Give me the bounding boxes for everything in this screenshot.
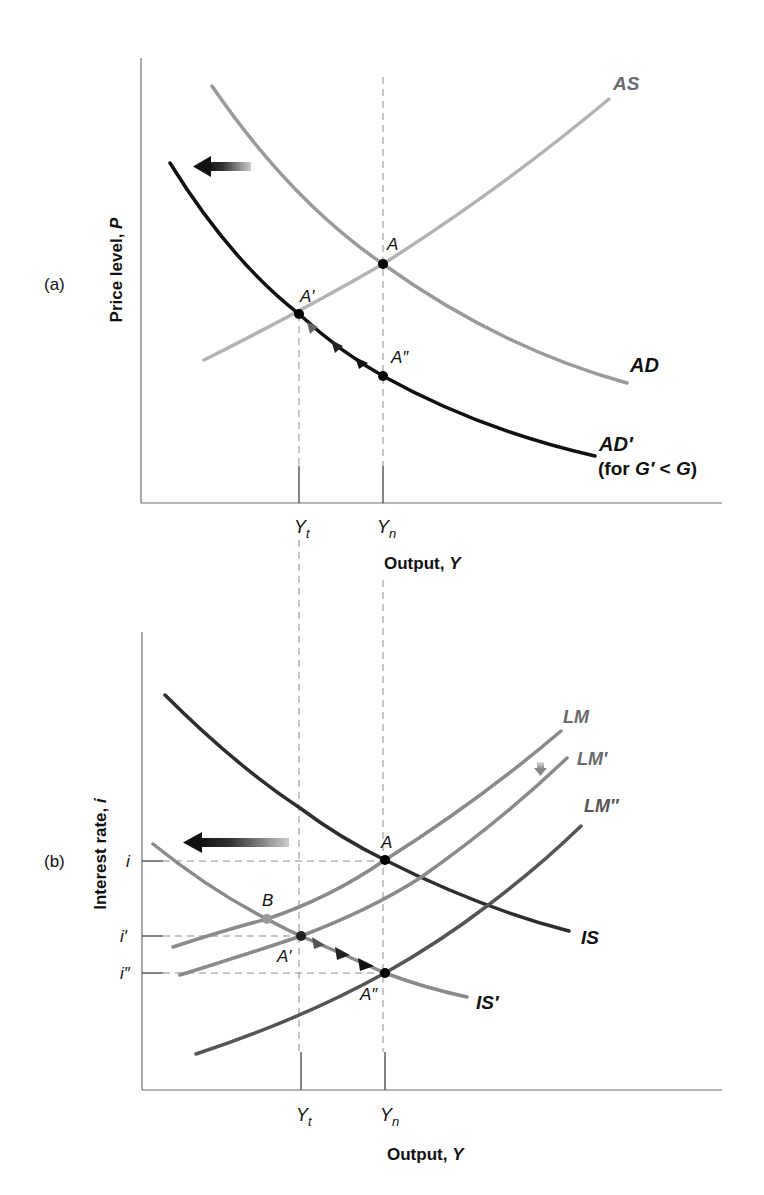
label-curve-lm-prime: LM′ <box>577 749 608 769</box>
point-a-prime <box>294 309 304 319</box>
tick-label-i-prime: i′ <box>120 927 128 946</box>
x-axis-title-a: Output, Y <box>384 554 462 573</box>
curve-is-prime <box>153 844 467 997</box>
label-point-b-a: A <box>380 833 392 852</box>
label-point-b-a-dprime: A″ <box>359 985 378 1004</box>
point-b-b <box>262 914 272 924</box>
label-curve-ad-prime-note: (for G′ < G) <box>598 458 697 479</box>
tick-label-i: i <box>126 852 131 871</box>
tick-label-yn-a: Yn <box>377 517 396 541</box>
figure-canvas: A A′ A″ AS AD AD′ (for G′ < G) Yt Yn Out… <box>0 0 764 1195</box>
label-curve-ad: AD <box>629 354 659 376</box>
label-curve-lm-dprime: LM″ <box>584 796 620 816</box>
point-b-a-prime <box>296 931 306 941</box>
tick-label-yn-b: Yn <box>380 1105 399 1129</box>
curve-as <box>204 99 609 360</box>
x-axis-title-b: Output, Y <box>387 1145 465 1164</box>
label-curve-is-prime: IS′ <box>476 992 500 1013</box>
point-a-dprime <box>378 371 388 381</box>
label-point-a: A <box>386 235 398 254</box>
point-a <box>378 259 388 269</box>
shift-left-arrow-b <box>183 832 289 853</box>
label-curve-ad-prime: AD′ <box>598 433 634 455</box>
tick-label-yt-b: Yt <box>296 1105 313 1129</box>
path-arrow-icon <box>358 958 374 971</box>
tick-label-i-dprime: i″ <box>120 964 131 983</box>
label-curve-is: IS <box>581 927 599 948</box>
panel-tag-a: (a) <box>44 275 65 294</box>
panel-tag-b: (b) <box>44 852 65 871</box>
curve-ad <box>212 86 627 383</box>
y-axis-title-b: Interest rate, i <box>91 797 110 910</box>
tick-label-yt-a: Yt <box>294 517 311 541</box>
y-axis-title-a: Price level, P <box>107 217 126 323</box>
panel-b: A B A′ A″ LM LM′ LM″ IS IS′ i i′ i″ Yt Y… <box>44 632 722 1164</box>
label-point-a-prime: A′ <box>299 287 315 306</box>
label-curve-as: AS <box>612 73 640 94</box>
shift-down-arrow-lm <box>534 762 547 776</box>
label-point-b-b: B <box>262 891 273 910</box>
label-curve-lm: LM <box>563 707 590 727</box>
label-point-a-dprime: A″ <box>390 348 409 367</box>
point-b-a <box>380 855 390 865</box>
shift-left-arrow-a <box>193 156 251 177</box>
panel-a: A A′ A″ AS AD AD′ (for G′ < G) Yt Yn Out… <box>44 58 722 573</box>
label-point-b-a-prime: A′ <box>276 947 292 966</box>
point-b-a-dprime <box>380 968 390 978</box>
